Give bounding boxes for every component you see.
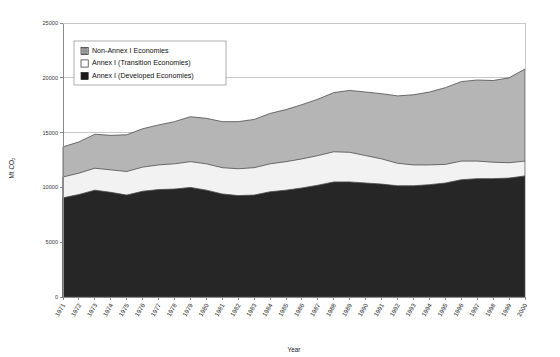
chart-container: 0500010000150002000025000 19711972197319…	[0, 0, 560, 357]
y-axis-tick-label: 10000	[42, 184, 58, 190]
x-axis-tick-label: 1973	[85, 302, 98, 318]
x-axis-tick-label: 1994	[420, 302, 433, 318]
x-axis-tick-label: 1977	[149, 302, 162, 318]
x-axis-tick-label: 1985	[276, 302, 289, 318]
x-axis-tick-label: 1999	[499, 302, 512, 318]
x-axis-title: Year	[288, 346, 302, 353]
x-axis-tick-label: 1983	[245, 302, 258, 318]
x-axis-tick-label: 1975	[117, 302, 130, 318]
x-axis-tick-label: 1992	[388, 302, 401, 318]
y-axis-tick-label: 20000	[42, 75, 58, 81]
stacked-area-chart: 0500010000150002000025000 19711972197319…	[0, 0, 560, 357]
x-axis-tick-label: 1988	[324, 302, 337, 318]
x-axis-tick-label: 1981	[213, 302, 226, 318]
x-axis-tick-label: 1987	[308, 302, 321, 318]
area-series	[63, 176, 525, 297]
x-axis-tick-label: 2000	[515, 302, 528, 318]
x-axis-tick-label: 1971	[53, 302, 66, 318]
y-axis-tick-label: 5000	[46, 239, 58, 245]
x-axis-tick-label: 1980	[197, 302, 210, 318]
x-axis-tick-label: 1982	[229, 302, 242, 318]
x-axis-tick-label: 1990	[356, 302, 369, 318]
x-axis-tick-label: 1997	[468, 302, 481, 318]
x-axis-tick-label: 1976	[133, 302, 146, 318]
legend-item-label: Annex I (Developed Economies)	[92, 72, 194, 80]
x-axis-tick-label: 1986	[292, 302, 305, 318]
y-axis-tick-label: 25000	[42, 20, 58, 26]
x-axis-tick-label: 1991	[372, 302, 385, 318]
x-axis-tick-label: 1998	[484, 302, 497, 318]
x-axis-tick-label: 1972	[69, 302, 82, 318]
x-axis-ticks-group: 1971197219731974197519761977197819791980…	[53, 297, 528, 317]
y-axis-ticks-group: 0500010000150002000025000	[42, 20, 63, 300]
x-axis-tick-label: 1996	[452, 302, 465, 318]
x-axis-tick-label: 1989	[340, 302, 353, 318]
x-axis-tick-label: 1979	[181, 302, 194, 318]
legend-swatch-black-square	[81, 72, 88, 79]
legend-item-label: Non-Annex I Economies	[92, 47, 169, 55]
x-axis-tick-label: 1974	[101, 302, 114, 318]
x-axis-tick-label: 1993	[404, 302, 417, 318]
y-axis-title: Mt CO₂	[8, 157, 15, 178]
y-axis-tick-label: 0	[55, 294, 58, 300]
area-series-group	[63, 69, 525, 297]
legend-item-label: Annex I (Transition Economies)	[92, 59, 191, 67]
y-axis-tick-label: 15000	[42, 130, 58, 136]
x-axis-tick-label: 1978	[165, 302, 178, 318]
x-axis-tick-label: 1984	[261, 302, 274, 318]
x-axis-tick-label: 1995	[436, 302, 449, 318]
legend-swatch-white-square	[81, 60, 88, 67]
chart-legend: Non-Annex I EconomiesAnnex I (Transition…	[74, 41, 226, 85]
